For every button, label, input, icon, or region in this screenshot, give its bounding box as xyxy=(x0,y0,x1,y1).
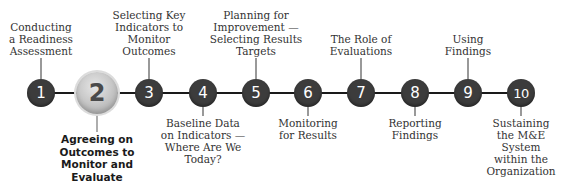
step-label-2: Agreeing onOutcomes toMonitor andEvaluat… xyxy=(59,133,134,183)
step-node-3: 3 xyxy=(135,79,163,107)
step-node-8: 8 xyxy=(401,79,429,107)
step-label-line: Evaluations xyxy=(330,45,392,57)
step-label-line: Assessment xyxy=(9,45,73,57)
step-label-line: Conducting xyxy=(9,21,73,33)
step-node-5: 5 xyxy=(242,79,270,107)
step-label-line: Targets xyxy=(210,45,303,57)
step-label-5: Planning forImprovement —Selecting Resul… xyxy=(210,9,303,57)
step-label-line: Indicators to xyxy=(113,21,186,33)
step-label-line: Where Are We xyxy=(161,141,245,153)
step-label-7: The Role ofEvaluations xyxy=(330,33,392,57)
step-node-2: 2 xyxy=(76,72,118,114)
step-label-line: Selecting Key xyxy=(113,9,186,21)
step-node-4: 4 xyxy=(189,79,217,107)
step-label-line: within the xyxy=(486,153,555,165)
step-label-line: Monitor and xyxy=(59,158,134,171)
step-label-8: ReportingFindings xyxy=(388,117,441,141)
step-label-1: Conductinga ReadinessAssessment xyxy=(9,21,73,57)
step-node-7: 7 xyxy=(347,79,375,107)
step-label-line: on Indicators — xyxy=(161,129,245,141)
step-label-line: Monitoring xyxy=(278,117,338,129)
step-label-line: Agreeing on xyxy=(59,133,134,146)
step-label-line: The Role of xyxy=(330,33,392,45)
step-label-line: the M&E xyxy=(486,129,555,141)
step-node-9: 9 xyxy=(454,79,482,107)
step-label-line: a Readiness xyxy=(9,33,73,45)
step-label-line: Outcomes xyxy=(113,45,186,57)
step-label-line: Monitor xyxy=(113,33,186,45)
step-label-line: for Results xyxy=(278,129,338,141)
step-node-6: 6 xyxy=(294,79,322,107)
step-label-line: Planning for xyxy=(210,9,303,21)
step-label-line: Evaluate xyxy=(59,171,134,184)
step-label-line: Selecting Results xyxy=(210,33,303,45)
step-label-10: Sustainingthe M&ESystemwithin theOrganiz… xyxy=(486,117,555,177)
step-label-line: Using xyxy=(445,33,491,45)
step-node-10: 10 xyxy=(507,79,535,107)
step-label-line: System xyxy=(486,141,555,153)
step-label-3: Selecting KeyIndicators toMonitorOutcome… xyxy=(113,9,186,57)
steps-diagram: Conductinga ReadinessAssessment1Agreeing… xyxy=(0,0,562,195)
step-label-4: Baseline Dataon Indicators —Where Are We… xyxy=(161,117,245,165)
step-label-line: Findings xyxy=(388,129,441,141)
step-label-9: UsingFindings xyxy=(445,33,491,57)
step-label-line: Organization xyxy=(486,165,555,177)
step-label-line: Sustaining xyxy=(486,117,555,129)
step-label-line: Outcomes to xyxy=(59,146,134,159)
step-label-line: Baseline Data xyxy=(161,117,245,129)
step-node-1: 1 xyxy=(27,79,55,107)
step-label-line: Improvement — xyxy=(210,21,303,33)
step-label-line: Today? xyxy=(161,153,245,165)
step-label-line: Reporting xyxy=(388,117,441,129)
step-label-6: Monitoringfor Results xyxy=(278,117,338,141)
step-label-line: Findings xyxy=(445,45,491,57)
